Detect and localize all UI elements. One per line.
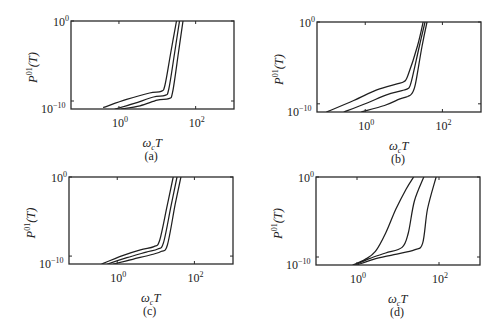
- y-axis-label: P01(T): [271, 54, 286, 86]
- x-tick-label: 102: [435, 118, 451, 133]
- x-tick-label: 100: [112, 115, 128, 130]
- series-curve-1: [104, 21, 177, 107]
- series-curve-1: [327, 22, 424, 112]
- y-axis-label: P01(T): [270, 208, 285, 240]
- y-tick-label: 10−10: [287, 104, 312, 119]
- x-tick-label: 102: [189, 115, 205, 130]
- series-curve-2: [115, 21, 179, 109]
- series-curve-2: [355, 177, 424, 265]
- series-curve-3: [361, 22, 427, 112]
- y-tick-label: 100: [51, 170, 67, 185]
- panel-label: (c): [143, 304, 156, 318]
- panel-label: (d): [390, 305, 404, 319]
- plot-frame: [316, 177, 480, 265]
- plot-frame: [71, 21, 234, 109]
- x-tick-label: 100: [350, 271, 366, 286]
- y-axis-label: P01(T): [23, 208, 38, 240]
- panel-c: 10010210010−10P01(T)ωcT(c): [23, 170, 233, 318]
- series-curve-2: [108, 177, 177, 264]
- plot-frame: [317, 22, 481, 112]
- series-curve-2: [344, 22, 425, 112]
- x-tick-label: 100: [110, 270, 126, 285]
- figure: 10010210010−10P01(T)ωcT(a)10010210010−10…: [0, 0, 503, 333]
- y-tick-label: 100: [53, 14, 69, 29]
- panel-label: (b): [391, 152, 405, 166]
- y-tick-label: 10−10: [286, 257, 311, 272]
- panel-label: (a): [145, 149, 158, 163]
- y-tick-label: 100: [298, 170, 314, 185]
- y-tick-label: 10−10: [39, 256, 64, 271]
- panel-a: 10010210010−10P01(T)ωcT(a): [25, 14, 234, 163]
- x-tick-label: 102: [432, 271, 448, 286]
- panel-b: 10010210010−10P01(T)ωcT(b): [271, 15, 481, 166]
- x-tick-label: 100: [358, 118, 374, 133]
- panel-d: 10010210010−10P01(T)ωcT(d): [270, 170, 480, 319]
- y-tick-label: 100: [299, 15, 315, 30]
- y-tick-label: 10−10: [41, 101, 66, 116]
- x-tick-label: 102: [187, 270, 203, 285]
- series-curve-3: [357, 177, 436, 265]
- y-axis-label: P01(T): [25, 52, 40, 84]
